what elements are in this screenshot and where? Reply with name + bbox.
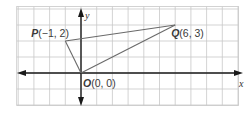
point-label-O: O(0, 0) <box>83 77 116 89</box>
point-coordinates: (0, 0) <box>91 77 116 89</box>
point-label-P: P(−1, 2) <box>31 27 69 39</box>
point-label-Q: Q(6, 3) <box>171 27 204 39</box>
triangle-OPQ <box>65 25 175 73</box>
point-coordinates: (−1, 2) <box>38 27 69 39</box>
point-labels: P(−1, 2)Q(6, 3)O(0, 0) <box>31 27 204 89</box>
grid-lines <box>17 7 239 106</box>
x-axis-label: x <box>238 78 244 89</box>
point-name: Q <box>171 27 179 39</box>
point-name: O <box>83 77 91 89</box>
coordinate-plane: xy P(−1, 2)Q(6, 3)O(0, 0) <box>0 0 250 117</box>
coordinate-plane-figure: xy P(−1, 2)Q(6, 3)O(0, 0) <box>0 0 250 117</box>
y-axis-label: y <box>84 10 90 21</box>
point-coordinates: (6, 3) <box>179 27 204 39</box>
